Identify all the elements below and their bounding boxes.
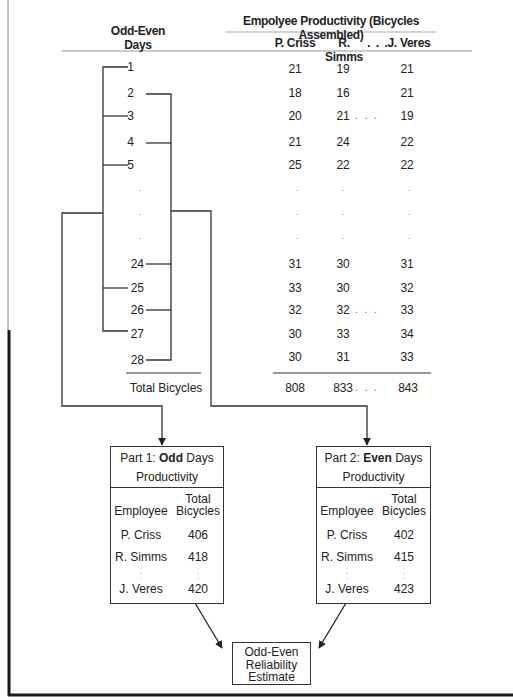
total-r-simms: 833 [328,381,358,395]
value-j-veres: 32 [392,281,422,295]
value-p-criss: 32 [280,303,310,317]
value-p-criss: 25 [280,158,310,172]
diagram-lines [0,0,513,700]
day-label: 25 [120,281,144,295]
value-j-veres: 22 [392,158,422,172]
value-p-criss: 30 [280,327,310,341]
value-p-criss: 31 [280,257,310,271]
days-column-header: Odd-Even Days [103,24,173,52]
value-j-veres: 21 [392,62,422,76]
even-title-prefix: Part 2: [324,451,363,465]
value-ellipsis: . [394,229,424,243]
day-label: 27 [120,327,144,341]
value-r-simms: 30 [328,257,358,271]
value-ellipsis: . [328,229,358,243]
employee-header-j-veres: J. Veres [386,36,432,50]
day-label: 24 [120,257,144,271]
value-r-simms: 22 [328,158,358,172]
value-r-simms: 19 [328,62,358,76]
value-j-veres: 33 [392,303,422,317]
estimate-line1: Odd-Even [233,646,310,659]
value-p-criss: 18 [280,86,310,100]
day-ellipsis: . [125,229,155,243]
odd-title-bold: Odd [159,451,183,465]
odd-row-employee: R. Simms [111,551,171,564]
total-bicycles-label: Total Bicycles [126,381,206,395]
odd-row-employee: P. Criss [111,529,171,542]
even-row-employee: R. Simms [317,551,377,564]
total-j-veres: 843 [393,381,423,395]
even-employee-vertical-ellipsis: ··· [317,566,377,581]
odd-title-suffix: Days [183,451,214,465]
days-header-line2: Days [103,38,173,52]
value-r-simms: 16 [328,86,358,100]
odd-to-estimate-arrow [195,603,222,648]
value-j-veres: 21 [392,86,422,100]
value-ellipsis: . [328,205,358,219]
value-r-simms: 33 [328,327,358,341]
even-row-total: 402 [379,529,429,542]
value-ellipsis: . [328,181,358,195]
employee-header-p-criss: P. Criss [273,36,317,50]
value-j-veres: 22 [392,135,422,149]
value-p-criss: 30 [280,350,310,364]
total-ellipsis: . . . [355,382,379,393]
value-ellipsis: . [282,229,312,243]
day-label: 26 [120,303,144,317]
even-title-suffix: Days [392,451,423,465]
even-row-total: 423 [379,583,429,596]
odd-col-employee: Employee [111,505,171,518]
odd-days-box: Part 1: Odd Days Productivity Employee T… [110,446,224,604]
even-row-total: 415 [379,551,429,564]
even-col-total-line2: Bicycles [379,505,429,518]
value-ellipsis: . [394,181,424,195]
value-r-simms: 31 [328,350,358,364]
even-box-title: Part 2: Even Days Productivity [317,447,430,488]
days-header-line1: Odd-Even [103,24,173,38]
even-days-box: Part 2: Even Days Productivity Employee … [316,446,431,604]
even-row-employee: P. Criss [317,529,377,542]
day-label: 5 [110,158,134,172]
value-p-criss: 21 [280,135,310,149]
day-label: 3 [110,109,134,123]
day-label: 1 [110,60,134,74]
even-to-estimate-arrow [319,603,346,648]
value-ellipsis: . [282,181,312,195]
even-total-vertical-ellipsis: ··· [379,566,429,581]
odd-connector [62,213,162,445]
value-j-veres: 19 [392,109,422,123]
odd-row-employee: J. Veres [111,583,171,596]
day-label: 2 [110,86,134,100]
odd-row-total: 420 [173,583,223,596]
day-ellipsis: . [125,205,155,219]
value-r-simms: 21 [328,109,358,123]
even-col-employee: Employee [317,505,377,518]
even-row-employee: J. Veres [317,583,377,596]
odd-box-title: Part 1: Odd Days Productivity [111,447,223,488]
even-day-bracket [146,94,171,360]
value-j-veres: 33 [392,350,422,364]
value-p-criss: 33 [280,281,310,295]
even-title-bold: Even [363,451,392,465]
value-r-simms: 32 [328,303,358,317]
odd-total-vertical-ellipsis: ··· [173,566,223,581]
day-label: 28 [120,353,144,367]
odd-title-prefix: Part 1: [120,451,159,465]
value-p-criss: 20 [280,109,310,123]
value-ellipsis: . [394,205,424,219]
value-j-veres: 34 [392,327,422,341]
value-j-veres: 31 [392,257,422,271]
row-ellipsis: . . . [355,304,379,315]
day-label: 4 [110,135,134,149]
odd-row-total: 418 [173,551,223,564]
value-ellipsis: . [282,205,312,219]
total-p-criss: 808 [280,381,310,395]
value-r-simms: 30 [328,281,358,295]
reliability-estimate-box: Odd-Even Reliability Estimate [232,642,311,685]
odd-col-total-line2: Bicycles [173,505,223,518]
value-r-simms: 24 [328,135,358,149]
odd-title-line2: Productivity [111,468,223,487]
employee-header-r-simms: R. Simms [318,36,370,64]
odd-row-total: 406 [173,529,223,542]
odd-employee-vertical-ellipsis: ··· [111,566,171,581]
